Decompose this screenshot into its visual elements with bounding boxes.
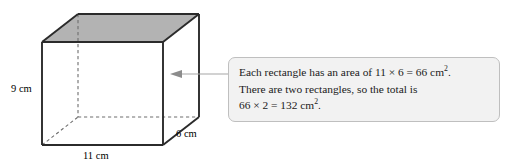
dimension-label-width: 11 cm [83,151,109,162]
cuboid-front-face [42,42,163,145]
dimension-label-height: 9 cm [11,84,32,95]
explanation-line-3-period: . [318,99,321,111]
dimension-label-depth: 6 cm [176,129,197,140]
explanation-line-2: There are two rectangles, so the total i… [239,81,490,98]
explanation-line-1: Each rectangle has an area of 11 × 6 = 6… [239,64,490,81]
figure-container: 9 cm 11 cm 6 cm Each rectangle has an ar… [0,0,510,168]
explanation-callout: Each rectangle has an area of 11 × 6 = 6… [228,57,500,122]
explanation-line-3-main: 66 × 2 = 132 cm [239,99,314,111]
explanation-line-3: 66 × 2 = 132 cm2. [239,97,490,114]
explanation-line-1-period: . [448,66,451,78]
explanation-line-1-main: Each rectangle has an area of 11 × 6 = 6… [239,66,444,78]
explanation-text: Each rectangle has an area of 11 × 6 = 6… [239,64,490,114]
